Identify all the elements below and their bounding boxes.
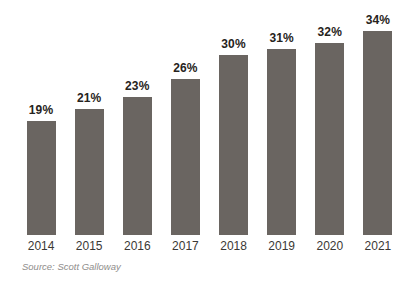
x-tick-label: 2019 xyxy=(258,240,306,252)
bar xyxy=(75,109,104,235)
bar-column: 31% xyxy=(258,0,306,235)
bar-value-label: 31% xyxy=(269,32,294,44)
bar-column: 34% xyxy=(354,0,402,235)
bar xyxy=(363,31,392,235)
bar-column: 21% xyxy=(65,0,113,235)
x-tick-label: 2016 xyxy=(113,240,161,252)
bar-column: 26% xyxy=(161,0,209,235)
bar xyxy=(219,55,248,235)
bar-column: 30% xyxy=(210,0,258,235)
bar-value-label: 21% xyxy=(77,92,102,104)
bar-chart-screenshot: 19%21%23%26%30%31%32%34% 201420152016201… xyxy=(0,0,415,285)
bar-value-label: 34% xyxy=(366,14,391,26)
bar-column: 23% xyxy=(113,0,161,235)
bar-value-label: 23% xyxy=(125,80,150,92)
x-tick-label: 2018 xyxy=(210,240,258,252)
x-tick-label: 2021 xyxy=(354,240,402,252)
source-note: Source: Scott Galloway xyxy=(22,261,121,272)
bar-value-label: 32% xyxy=(318,26,343,38)
x-axis-labels: 20142015201620172018201920202021 xyxy=(17,240,402,252)
bar-value-label: 30% xyxy=(221,38,246,50)
x-tick-label: 2015 xyxy=(65,240,113,252)
bar-column: 32% xyxy=(306,0,354,235)
bar-value-label: 26% xyxy=(173,62,198,74)
bar xyxy=(123,97,152,235)
bar xyxy=(267,49,296,235)
bar-column: 19% xyxy=(17,0,65,235)
chart-plot-area: 19%21%23%26%30%31%32%34% xyxy=(17,0,402,235)
bar xyxy=(315,43,344,235)
bar xyxy=(171,79,200,235)
x-tick-label: 2020 xyxy=(306,240,354,252)
x-tick-label: 2014 xyxy=(17,240,65,252)
bar-value-label: 19% xyxy=(29,104,54,116)
bar xyxy=(27,121,56,235)
x-tick-label: 2017 xyxy=(161,240,209,252)
